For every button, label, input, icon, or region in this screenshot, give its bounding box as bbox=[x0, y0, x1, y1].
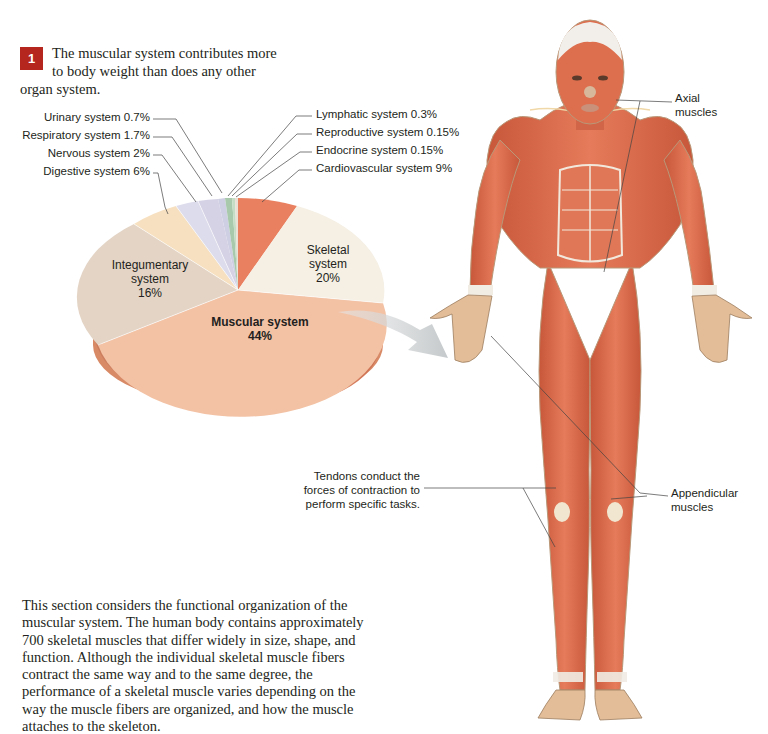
label-integumentary-line2: system bbox=[95, 272, 205, 286]
leader-label-digestive: Digestive system 6% bbox=[43, 165, 150, 177]
callout-tendons-line3: perform specific tasks. bbox=[290, 497, 420, 511]
body-paragraph: This section considers the functional or… bbox=[22, 597, 382, 734]
label-integumentary-pct: 16% bbox=[95, 286, 205, 300]
label-skeletal: Skeletal system 20% bbox=[288, 243, 368, 285]
callout-tendons: Tendons conduct the forces of contractio… bbox=[290, 469, 420, 511]
leader-label-reproductive: Reproductive system 0.15% bbox=[316, 126, 459, 138]
leader-label-cardiovascular: Cardiovascular system 9% bbox=[316, 162, 452, 174]
label-skeletal-pct: 20% bbox=[288, 271, 368, 285]
leader-label-endocrine: Endocrine system 0.15% bbox=[316, 144, 443, 156]
pie-chart bbox=[77, 198, 387, 417]
leader-label-nervous: Nervous system 2% bbox=[48, 147, 150, 159]
callout-appendicular-line2: muscles bbox=[671, 500, 738, 514]
label-muscular: Muscular system 44% bbox=[195, 315, 325, 343]
callout-axial-line1: Axial bbox=[675, 91, 717, 105]
label-integumentary: Integumentary system 16% bbox=[95, 258, 205, 300]
label-skeletal-line2: system bbox=[288, 257, 368, 271]
callout-axial-line2: muscles bbox=[675, 105, 717, 119]
label-muscular-pct: 44% bbox=[195, 329, 325, 343]
label-muscular-name: Muscular system bbox=[195, 315, 325, 329]
leader-label-urinary: Urinary system 0.7% bbox=[44, 111, 150, 123]
callout-tendons-line2: forces of contraction to bbox=[290, 483, 420, 497]
label-integumentary-line1: Integumentary bbox=[95, 258, 205, 272]
leader-label-lymphatic: Lymphatic system 0.3% bbox=[316, 108, 437, 120]
label-skeletal-line1: Skeletal bbox=[288, 243, 368, 257]
callout-tendons-line1: Tendons conduct the bbox=[290, 469, 420, 483]
muscular-figure bbox=[430, 20, 752, 720]
callout-appendicular-muscles: Appendicular muscles bbox=[671, 486, 738, 514]
leader-label-respiratory: Respiratory system 1.7% bbox=[22, 129, 150, 141]
callout-axial-muscles: Axial muscles bbox=[675, 91, 717, 119]
callout-appendicular-line1: Appendicular bbox=[671, 486, 738, 500]
